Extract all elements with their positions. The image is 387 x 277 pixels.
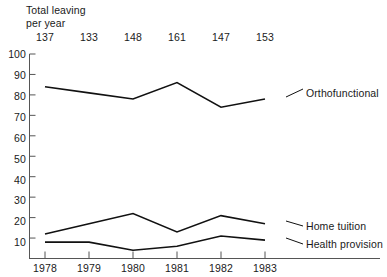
chart-container: Total leavingper year 137 133 148 161 14… [0, 0, 387, 277]
series-line-home-tuition [45, 214, 265, 235]
y-axis-ticks [30, 54, 36, 238]
axes-group [30, 54, 381, 259]
series-line-orthofunctional [45, 83, 265, 108]
x-axis-ticks [45, 252, 265, 259]
series-line-health-provision [45, 236, 265, 250]
leader-line-health-provision [286, 238, 303, 244]
leader-line-home-tuition [286, 221, 303, 226]
leader-lines-group [286, 89, 303, 244]
leader-line-orthofunctional [286, 89, 303, 97]
plot-area [0, 0, 387, 277]
series-lines-group [45, 83, 265, 251]
